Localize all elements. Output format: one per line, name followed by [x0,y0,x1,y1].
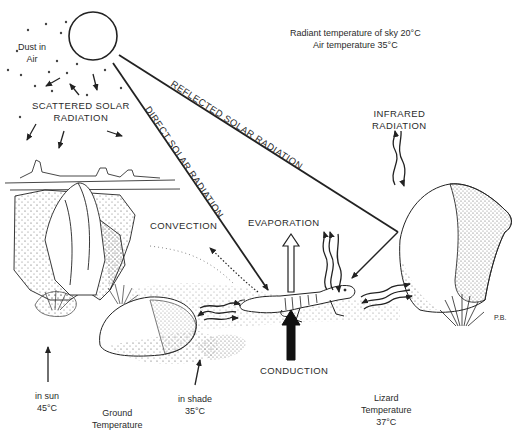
scattered-label-line1: SCATTERED SOLAR [32,100,130,112]
evaporation-arrow [283,234,299,292]
reflected-to-lizard-arrow [352,232,398,278]
ground-sun-text: in sun [35,390,59,402]
artist-initials: P.B. [494,312,506,324]
lizard-temperature-label: Lizard Temperature 37°C [361,392,412,428]
ground-shade-label: in shade 35°C [178,393,212,417]
conduction-label: CONDUCTION [260,365,328,377]
lizard-temp-value: 37°C [361,416,412,428]
air-temp-text: Air temperature 35°C [290,39,421,51]
right-boulder [400,184,512,313]
infrared-label-line1: INFRARED [372,108,427,120]
sky-infrared-arrows [393,131,405,186]
sun-icon [69,12,117,60]
evaporation-label: EVAPORATION [248,217,320,229]
dust-label-line2: Air [18,53,46,65]
convection-label: CONVECTION [150,220,217,232]
lizard-title-line2: Temperature [361,404,412,416]
ground-shade-text: in shade [178,393,212,405]
horizon-mesas [5,160,180,190]
lizard-title-line1: Lizard [361,392,412,404]
ground-sun-temp: 45°C [35,402,59,414]
sky-temperature-label: Radiant temperature of sky 20°C Air temp… [290,27,421,51]
dust-label-line1: Dust in [18,41,46,53]
lizard-infrared-arrows [323,232,341,292]
ground-shade-arrow [195,360,200,385]
convection-plume [150,246,235,285]
ground-temperature-label: Ground Temperature [92,407,143,431]
scattered-label-line2: RADIATION [32,112,130,124]
infrared-radiation-label: INFRARED RADIATION [372,108,427,132]
ground-shade-temp: 35°C [178,405,212,417]
scattered-solar-radiation-label: SCATTERED SOLAR RADIATION [32,100,130,124]
ground-title-line2: Temperature [92,419,143,431]
dust-label: Dust in Air [18,41,46,65]
ground-sun-label: in sun 45°C [35,390,59,414]
ground-title-line1: Ground [92,407,143,419]
left-rock-formation [14,183,135,300]
radiant-temp-text: Radiant temperature of sky 20°C [290,27,421,39]
infrared-label-line2: RADIATION [372,120,427,132]
